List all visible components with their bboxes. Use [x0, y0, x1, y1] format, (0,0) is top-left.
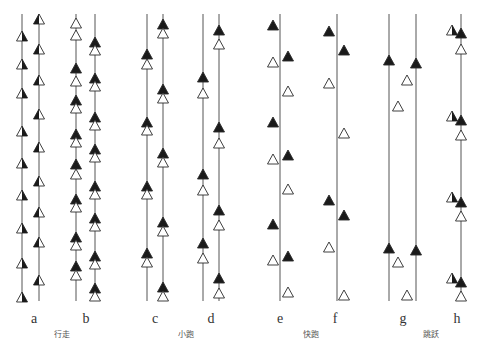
footprint-triangle-e [268, 117, 279, 127]
footprint-triangle-f [339, 290, 350, 300]
footprint-marks [17, 14, 467, 302]
footprint-triangle-a [17, 59, 28, 69]
footprint-triangle-e [268, 255, 279, 265]
column-label-h: h [454, 311, 461, 327]
gait-diagram [0, 0, 479, 349]
footprint-triangle-b [71, 159, 82, 169]
footprint-triangle-e [283, 150, 294, 160]
column-label-g: g [400, 311, 407, 327]
footprint-triangle-a [17, 88, 28, 98]
footprint-triangle-g [402, 290, 413, 300]
footprint-triangle-a [34, 207, 45, 217]
footprint-triangle-h [447, 192, 458, 202]
footprint-triangle-a [17, 258, 28, 268]
footprint-triangle-f [324, 26, 335, 36]
footprint-triangle-e [283, 287, 294, 297]
footprint-triangle-d [214, 138, 225, 148]
footprint-triangle-g [384, 55, 395, 65]
footprint-triangle-d [198, 238, 209, 248]
column-label-a: a [31, 311, 37, 327]
column-label-e: e [277, 311, 283, 327]
footprint-triangle-a [34, 44, 45, 54]
footprint-triangle-b [71, 270, 82, 280]
footprint-triangle-h [456, 211, 467, 221]
footprint-triangle-e [268, 20, 279, 30]
footprint-triangle-b [71, 30, 82, 40]
footprint-triangle-d [214, 39, 225, 49]
footprint-triangle-e [268, 219, 279, 229]
footprint-triangle-g [384, 243, 395, 253]
footprint-triangle-g [402, 75, 413, 85]
footprint-triangle-d [198, 185, 209, 195]
footprint-triangle-c [158, 291, 169, 301]
footprint-triangle-c [158, 226, 169, 236]
footprint-triangle-d [214, 122, 225, 132]
footprint-triangle-e [283, 251, 294, 261]
footprint-triangle-d [214, 205, 225, 215]
footprint-triangle-c [142, 49, 153, 59]
gait-group-label: 快跑 [303, 328, 319, 339]
footprint-triangle-f [324, 78, 335, 88]
footprint-triangle-e [268, 154, 279, 164]
footprint-triangle-b [71, 63, 82, 73]
footprint-triangle-b [71, 169, 82, 179]
gait-group-label: 行走 [54, 328, 70, 339]
footprint-triangle-e [283, 184, 294, 194]
footprint-triangle-a [34, 176, 45, 186]
footprint-triangle-f [339, 210, 350, 220]
footprint-triangle-g [393, 101, 404, 111]
footprint-triangle-h [456, 130, 467, 140]
footprint-triangle-a [34, 275, 45, 285]
footprint-triangle-c [142, 257, 153, 267]
footprint-triangle-f [339, 128, 350, 138]
footprint-triangle-a [34, 109, 45, 119]
footprint-triangle-d [214, 25, 225, 35]
footprint-triangle-a [17, 292, 28, 302]
footprint-triangle-a [34, 142, 45, 152]
footprint-triangle-d [214, 288, 225, 298]
footprint-triangle-g [411, 245, 422, 255]
column-label-b: b [83, 311, 90, 327]
column-label-c: c [152, 311, 158, 327]
footprint-triangle-d [214, 220, 225, 230]
column-label-d: d [208, 311, 215, 327]
footprint-triangle-h [456, 44, 467, 54]
gait-group-label: 小跑 [178, 328, 194, 339]
footprint-triangle-f [324, 242, 335, 252]
footprint-triangle-a [34, 237, 45, 247]
footprint-triangle-d [198, 88, 209, 98]
footprint-triangle-a [34, 14, 45, 24]
footprint-triangle-b [71, 18, 82, 28]
footprint-triangle-a [17, 223, 28, 233]
footprint-triangle-d [214, 273, 225, 283]
footprint-triangle-e [268, 57, 279, 67]
footprint-triangle-h [447, 111, 458, 121]
footprint-triangle-e [283, 86, 294, 96]
footprint-triangle-c [142, 59, 153, 69]
footprint-triangle-h [447, 273, 458, 283]
footprint-triangle-h [456, 291, 467, 301]
footprint-triangle-d [198, 72, 209, 82]
footprint-triangle-d [198, 253, 209, 263]
footprint-triangle-a [17, 190, 28, 200]
footprint-triangle-e [283, 51, 294, 61]
footprint-triangle-a [17, 31, 28, 41]
footprint-triangle-g [393, 257, 404, 267]
footprint-triangle-c [158, 28, 169, 38]
column-label-f: f [333, 311, 338, 327]
footprint-triangle-g [411, 58, 422, 68]
track-lines [22, 14, 461, 301]
footprint-triangle-b [71, 76, 82, 86]
footprint-triangle-c [158, 157, 169, 167]
footprint-triangle-c [158, 93, 169, 103]
footprint-triangle-h [447, 25, 458, 35]
footprint-triangle-a [34, 75, 45, 85]
footprint-triangle-a [17, 126, 28, 136]
footprint-triangle-f [324, 195, 335, 205]
gait-group-label: 跳跃 [423, 328, 439, 339]
footprint-triangle-d [198, 169, 209, 179]
footprint-triangle-h [456, 28, 467, 38]
footprint-triangle-f [339, 45, 350, 55]
footprint-triangle-a [17, 158, 28, 168]
